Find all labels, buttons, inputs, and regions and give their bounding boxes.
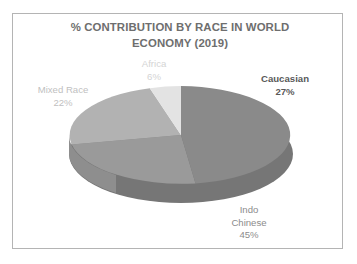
pie-label-africa: Africa 6% [117,58,191,83]
pie-graphic [13,14,344,250]
pie-chart[interactable]: % CONTRIBUTION BY RACE IN WORLD ECONOMY … [13,14,342,248]
pie-label-caucasian: Caucasian 27% [241,73,329,98]
pie-label-mixed-race: Mixed Race 22% [17,84,109,109]
chart-frame: % CONTRIBUTION BY RACE IN WORLD ECONOMY … [12,13,343,249]
screenshot-root: % CONTRIBUTION BY RACE IN WORLD ECONOMY … [0,0,357,264]
pie-label-indo-chinese: Indo Chinese 45% [209,204,289,242]
